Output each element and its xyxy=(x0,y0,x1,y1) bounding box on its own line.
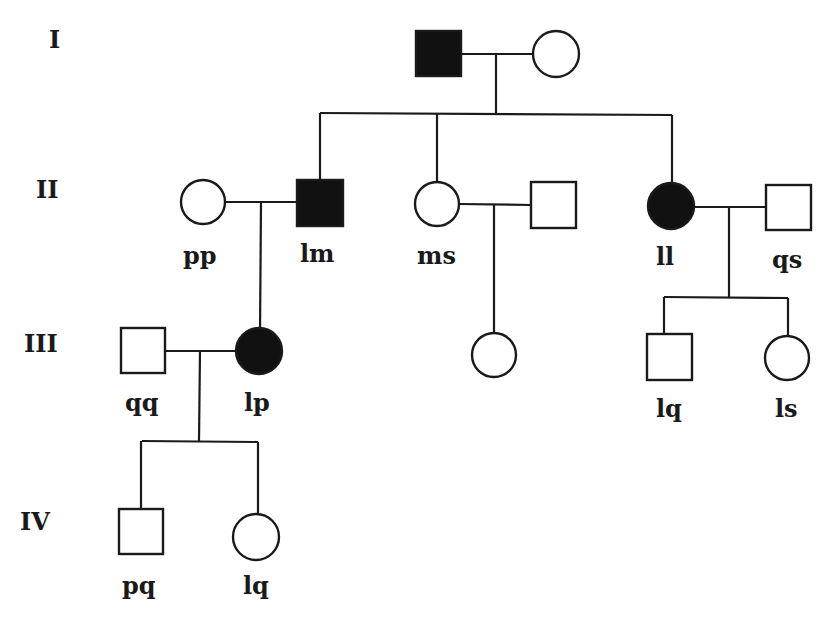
individual-lq-IV-unaffected-female xyxy=(233,514,279,560)
generation-label-II: II xyxy=(36,175,58,204)
label-qs: qs xyxy=(772,245,802,274)
label-ll: ll xyxy=(656,242,674,271)
individual-I-2-unaffected-female xyxy=(533,31,579,77)
individual-ms-partner-unaffected-male xyxy=(531,182,576,228)
label-ms: ms xyxy=(417,241,456,270)
label-lq-III: lq xyxy=(656,394,682,423)
mating-line-ms xyxy=(459,204,531,332)
generation-label-IV: IV xyxy=(20,507,50,536)
label-lp: lp xyxy=(244,388,270,417)
individual-ms-unaffected-female xyxy=(415,182,459,226)
generation-label-III: III xyxy=(24,329,58,358)
individual-qs-unaffected-male xyxy=(766,185,811,230)
label-lq-IV: lq xyxy=(243,571,269,600)
label-lm: lm xyxy=(300,239,335,268)
individual-lp-affected-female xyxy=(236,328,282,374)
label-qq: qq xyxy=(125,388,159,417)
individual-lq-III-unaffected-male xyxy=(647,334,692,380)
individual-lm-affected-male xyxy=(297,180,343,226)
label-ls: ls xyxy=(775,394,798,423)
label-pp: pp xyxy=(183,241,217,270)
individual-ms-child-unaffected-female xyxy=(472,333,516,377)
individual-pq-unaffected-male xyxy=(119,509,163,554)
individual-pp-unaffected-female xyxy=(181,180,225,224)
generation-label-I: I xyxy=(49,25,60,54)
pedigree-diagram: I II III IV pp lm ms ll qs xyxy=(0,0,830,626)
individual-ls-unaffected-female xyxy=(765,336,809,380)
label-pq: pq xyxy=(122,571,156,600)
mating-line-I xyxy=(320,54,672,184)
individual-I-1-affected-male xyxy=(416,31,461,76)
mating-line-qq-lp xyxy=(141,351,258,514)
individual-qq-unaffected-male xyxy=(121,328,165,373)
individual-ll-affected-female xyxy=(648,183,694,229)
mating-line-pp-lm xyxy=(225,202,297,336)
